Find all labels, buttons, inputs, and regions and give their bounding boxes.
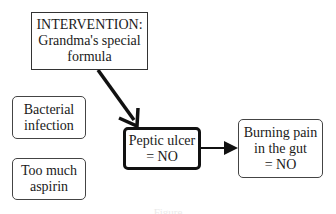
- intervention-line-1: INTERVENTION:: [36, 17, 142, 33]
- bacterial-line-2: infection: [24, 118, 74, 134]
- burning-line-2: in the gut: [254, 141, 307, 157]
- burning-pain-box: Burning pain in the gut = NO: [238, 119, 323, 178]
- burning-line-3: = NO: [265, 157, 297, 173]
- burning-line-1: Burning pain: [244, 125, 318, 141]
- bacterial-line-1: Bacterial: [24, 102, 75, 118]
- intervention-line-3: formula: [67, 49, 111, 65]
- figure-caption: Figure: [0, 206, 336, 214]
- too-much-aspirin-box: Too much aspirin: [12, 158, 86, 200]
- aspirin-line-2: aspirin: [30, 179, 68, 195]
- peptic-ulcer-box: Peptic ulcer = NO: [123, 127, 201, 170]
- arrow-intervention-to-peptic: [98, 70, 138, 126]
- intervention-box: INTERVENTION: Grandma's special formula: [31, 12, 148, 70]
- intervention-line-2: Grandma's special: [38, 33, 140, 49]
- bacterial-infection-box: Bacterial infection: [12, 96, 86, 139]
- peptic-line-1: Peptic ulcer: [129, 133, 195, 149]
- aspirin-line-1: Too much: [21, 163, 77, 179]
- peptic-line-2: = NO: [146, 149, 178, 165]
- arrow-peptic-to-burning: [201, 141, 238, 155]
